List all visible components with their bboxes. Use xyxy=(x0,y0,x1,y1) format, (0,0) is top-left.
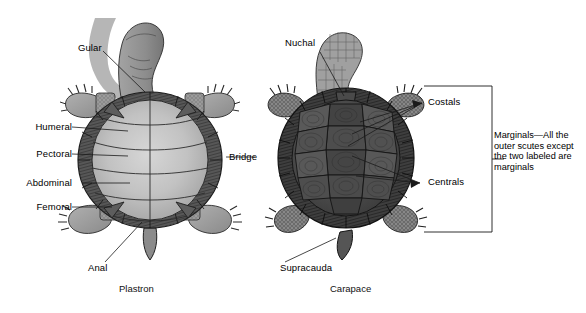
marginals-bracket xyxy=(424,86,504,232)
leader-anal xyxy=(105,222,142,262)
caption-carapace: Carapace xyxy=(330,283,371,294)
label-anal: Anal xyxy=(88,262,107,273)
label-costals: Costals xyxy=(428,96,460,107)
label-pectoral: Pectoral xyxy=(14,148,72,159)
label-centrals: Centrals xyxy=(428,176,464,187)
centrals-arrowhead xyxy=(410,179,420,188)
carapace-tail xyxy=(337,230,352,260)
label-femoral: Femoral xyxy=(14,201,72,212)
carapace-illustration xyxy=(265,32,427,262)
turtle-anatomy-figure: Gular Humeral Pectoral Abdominal Femoral… xyxy=(0,0,586,313)
plastron-illustration xyxy=(58,18,242,262)
label-bridge: Bridge xyxy=(229,151,257,162)
label-supracauda: Supracauda xyxy=(280,262,332,273)
marginals-note: Marginals—All the outer scutes except th… xyxy=(494,130,586,172)
label-abdominal: Abdominal xyxy=(8,177,72,188)
caption-plastron: Plastron xyxy=(119,283,154,294)
plastron-tail xyxy=(143,228,157,260)
leader-supracauda xyxy=(285,238,336,262)
label-nuchal: Nuchal xyxy=(285,37,315,48)
label-gular: Gular xyxy=(78,42,102,53)
label-humeral: Humeral xyxy=(14,121,72,132)
